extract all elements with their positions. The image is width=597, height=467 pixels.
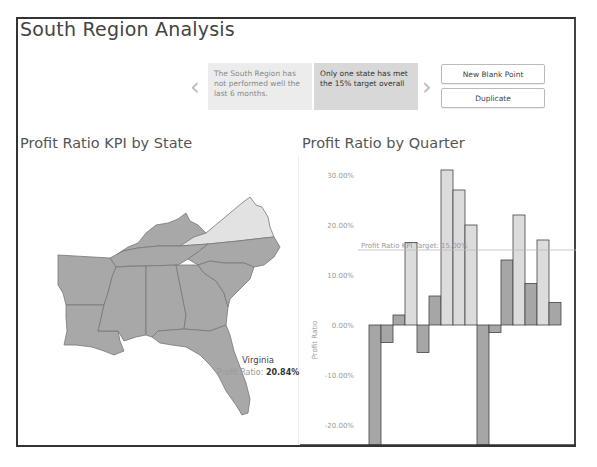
tooltip-state-name: Virginia [208,355,308,367]
lake-okeechobee [226,400,231,405]
story-point-1-text: The South Region has not performed well … [214,69,300,98]
story-point-1[interactable]: The South Region has not performed well … [208,63,312,110]
y-tick-label: 30.00% [327,172,354,180]
bar[interactable] [477,325,489,445]
bar[interactable] [489,325,501,333]
story-point-2[interactable]: Only one state has met the 15% target ov… [314,63,418,110]
bar[interactable] [501,260,513,325]
bar[interactable] [513,215,525,325]
y-tick-label: 0.00% [332,322,355,330]
chevron-right-icon[interactable]: › [422,75,432,99]
bar[interactable] [393,315,405,325]
bar[interactable] [465,225,477,325]
duplicate-button[interactable]: Duplicate [441,88,545,108]
y-tick-label: -10.00% [325,372,355,380]
bar[interactable] [405,243,417,326]
bar[interactable] [525,284,537,326]
bar[interactable] [453,190,465,325]
y-axis-ticks: 30.00%20.00%10.00%0.00%-10.00%-20.00% [325,172,355,430]
y-tick-label: -20.00% [325,422,355,430]
map-section-title: Profit Ratio KPI by State [20,135,192,151]
story-point-2-text: Only one state has met the 15% target ov… [320,69,408,88]
bar[interactable] [417,325,429,353]
new-blank-point-button[interactable]: New Blank Point [441,64,545,84]
tooltip-value: 20.84% [266,368,299,377]
reference-line-label: Profit Ratio KPI Target: 15.00% [361,242,468,250]
bar[interactable] [429,296,441,325]
map-tooltip: Virginia Profit Ratio: 20.84% [208,355,308,378]
bar[interactable] [369,325,381,445]
y-tick-label: 20.00% [327,222,354,230]
bar[interactable] [537,240,549,325]
chart-section-title: Profit Ratio by Quarter [302,135,465,151]
dashboard-title: South Region Analysis [20,18,235,40]
profit-ratio-bar-chart: Profit Ratio 30.00%20.00%10.00%0.00%-10.… [300,155,576,447]
bars [300,170,576,445]
y-axis-label: Profit Ratio [311,321,319,359]
state-map: Virginia Profit Ratio: 20.84% [18,155,299,445]
tooltip-profit-ratio: Profit Ratio: 20.84% [208,367,308,378]
tooltip-label: Profit Ratio: [217,368,264,377]
y-tick-label: 10.00% [327,272,354,280]
bar[interactable] [549,303,561,326]
chevron-left-icon[interactable]: ‹ [190,75,200,99]
bar[interactable] [381,325,393,343]
southeast-map [18,155,298,445]
